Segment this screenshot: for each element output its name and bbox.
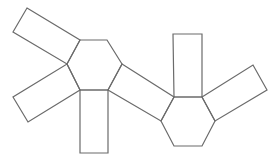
rect-top-left <box>13 8 80 64</box>
rect-bottom <box>80 90 108 153</box>
hexagon-right <box>161 97 215 146</box>
net-diagram <box>0 0 270 162</box>
rect-bottom-left <box>13 64 80 122</box>
rect-right <box>202 65 267 121</box>
rect-top-right <box>173 34 202 97</box>
hexagon-left <box>67 40 122 90</box>
shapes-group <box>13 8 267 153</box>
diagram-svg <box>0 0 270 162</box>
rect-connector <box>108 64 174 121</box>
